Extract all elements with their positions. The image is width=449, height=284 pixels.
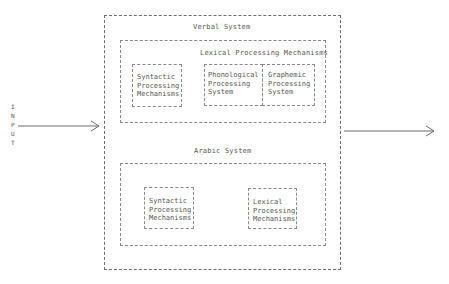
text-line: Processing (137, 82, 179, 91)
text-line: System (268, 88, 310, 97)
text-line: Mechanisms (149, 214, 191, 223)
arabic-system-title: Arabic System (194, 147, 251, 155)
text-line: Lexical (253, 198, 295, 207)
arabic-syntactic-text: SyntacticProcessingMechanisms (149, 197, 191, 223)
graphemic-text: GraphemicProcessingSystem (268, 71, 310, 97)
text-line: Syntactic (149, 197, 191, 206)
arabic-lexical-text: LexicalProcessingMechanisms (253, 198, 295, 224)
input-arrow (18, 121, 99, 131)
text-line: Processing (149, 206, 191, 215)
text-line: Mechanisms (137, 90, 179, 99)
text-line: Graphemic (268, 71, 310, 80)
text-line: Phonological (208, 71, 259, 80)
text-line: Processing (253, 207, 295, 216)
verbal-syntactic-text: SyntacticProcessingMechanisms (137, 73, 179, 99)
text-line: Syntactic (137, 73, 179, 82)
output-arrow (344, 126, 434, 136)
verbal-system-title: Verbal System (193, 23, 250, 31)
text-line: Processing (268, 80, 310, 89)
text-line: Processing (208, 80, 259, 89)
phonological-text: PhonologicalProcessingSystem (208, 71, 259, 97)
verbal-lexical-title: Lexical Processing Mechanisms (200, 49, 328, 57)
text-line: Mechanisms (253, 215, 295, 224)
text-line: System (208, 88, 259, 97)
